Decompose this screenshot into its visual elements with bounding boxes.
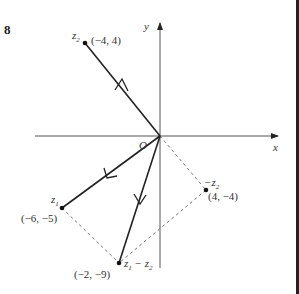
label-z1-minus-z2: z1 − z2	[123, 257, 153, 272]
label-z1: z1	[50, 193, 59, 208]
point-z2	[83, 41, 88, 46]
coord-z1: (−6, −5)	[21, 212, 58, 225]
vector-z1-minus-z2	[119, 136, 160, 263]
coord-z1-minus-z2: (−2, −9)	[74, 268, 111, 281]
vector-z2	[85, 43, 160, 136]
x-axis-label: x	[272, 141, 278, 153]
problem-number: 8	[4, 22, 11, 37]
label-z2: z2	[71, 29, 80, 44]
coord-neg-z2: (4, −4)	[208, 190, 238, 203]
coord-z2: (−4, 4)	[91, 34, 121, 47]
y-axis-label: y	[143, 20, 149, 32]
point-z1	[60, 206, 65, 211]
argand-diagram: 8 y x O z2 (−4, 4) z1 (−6, −5) −z2 (4, −…	[0, 0, 299, 294]
point-z1-minus-z2	[117, 261, 122, 266]
origin-label: O	[139, 139, 147, 151]
